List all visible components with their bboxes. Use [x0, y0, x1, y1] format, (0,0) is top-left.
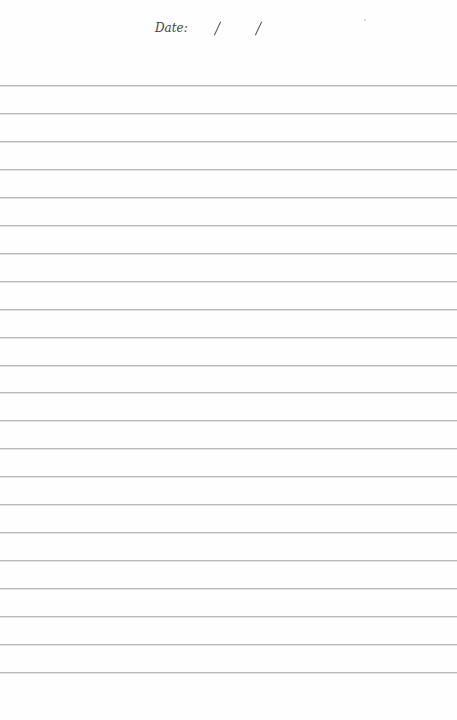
ruled-line: [0, 141, 457, 143]
ruled-lines: [0, 0, 457, 720]
ruled-line: [0, 448, 457, 450]
ruled-line: [0, 560, 457, 562]
ruled-line: [0, 420, 457, 422]
ruled-line: [0, 281, 457, 283]
ruled-line: [0, 225, 457, 227]
ruled-line: [0, 365, 457, 367]
ruled-line: [0, 197, 457, 199]
ruled-line: [0, 113, 457, 115]
ruled-line: [0, 169, 457, 171]
ruled-line: [0, 85, 457, 87]
ruled-line: [0, 392, 457, 394]
ruled-line: [0, 616, 457, 618]
ruled-line: [0, 672, 457, 674]
ruled-line: [0, 504, 457, 506]
ruled-line: [0, 588, 457, 590]
ruled-line: [0, 309, 457, 311]
ruled-line: [0, 644, 457, 646]
ruled-line: [0, 476, 457, 478]
ruled-line: [0, 253, 457, 255]
ruled-line: [0, 532, 457, 534]
notebook-page: Date:: [0, 0, 457, 720]
ruled-line: [0, 337, 457, 339]
